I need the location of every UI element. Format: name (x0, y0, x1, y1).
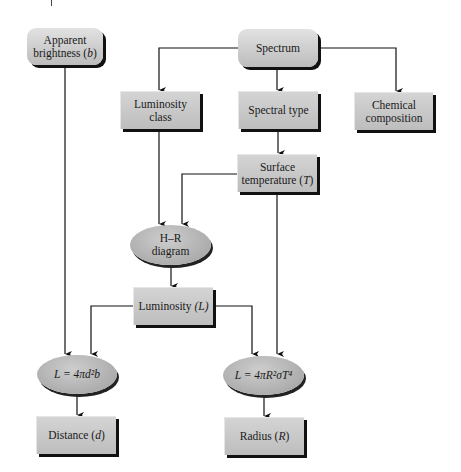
node-surface-temperature: Surfacetemperature (T) (237, 154, 317, 192)
node-label: Chemical (372, 99, 416, 111)
node-label: class (149, 111, 171, 123)
node-label: H–R (160, 232, 182, 244)
node-distance: Distance (d) (36, 416, 116, 454)
node-label: composition (366, 112, 423, 124)
node-apparent-brightness: Apparentbrightness (b) (27, 28, 103, 65)
node-radius: Radius (R) (224, 417, 304, 455)
node-label: ) (101, 429, 105, 441)
node-label: Radius ( (240, 430, 279, 442)
node-label: Spectral type (248, 104, 308, 117)
node-spectrum: Spectrum (238, 29, 318, 67)
connector-lines (0, 0, 461, 472)
node-label: diagram (152, 245, 190, 257)
node-label: Apparent (44, 34, 87, 46)
node-label: Spectrum (256, 42, 300, 55)
node-label: ) (93, 47, 97, 59)
node-label: Surface (260, 161, 295, 173)
node-spectral-type: Spectral type (238, 91, 318, 129)
edge-luminosity-eq2 (213, 306, 252, 354)
node-radius-equation: L = 4πR²σT⁴ (223, 356, 304, 395)
variable-l: (L) (194, 300, 208, 312)
node-label: Luminosity (134, 98, 187, 110)
node-label: ) (285, 430, 289, 442)
edge-surface-hr (182, 174, 237, 224)
edge-luminosity-eq1 (91, 306, 133, 354)
edge-spectrum-chemical (318, 48, 396, 91)
node-label: Luminosity (139, 300, 195, 312)
node-label: temperature ( (242, 174, 304, 186)
edge-spectrum-luminosity-class (159, 48, 238, 90)
node-label: brightness ( (33, 47, 87, 59)
equation-label: L = 4πd²b (54, 368, 100, 381)
node-luminosity: Luminosity (L) (133, 287, 213, 325)
node-label: Distance ( (48, 429, 95, 441)
node-luminosity-class: Luminosityclass (120, 91, 200, 129)
equation-label: L = 4πR²σT⁴ (235, 369, 293, 382)
node-chemical-composition: Chemicalcomposition (354, 92, 433, 130)
node-distance-equation: L = 4πd²b (37, 355, 117, 394)
node-hr-diagram: H–Rdiagram (130, 225, 211, 265)
node-label: ) (310, 174, 314, 186)
